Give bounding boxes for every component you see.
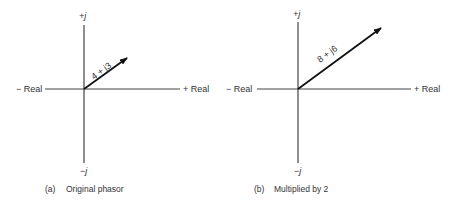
caption-text: Original phasor [66,184,124,194]
phasor-vector [298,28,381,89]
pos-real-label: + Real [183,84,209,94]
pos-imag-label: +j [79,11,87,21]
neg-imag-label: −j [80,166,88,176]
phasor-label: 4 + j3 [89,60,113,81]
neg-imag-label: −j [294,166,302,176]
caption-letter: (b) [254,184,265,194]
caption-letter: (a) [45,184,56,194]
neg-real-label: − Real [16,84,42,94]
pos-imag-label: +j [293,9,301,19]
panel-b-multiplied-by-2: − Real + Real +j −j 8 + j6 (b) Multiplie… [226,9,440,194]
panel-a-original-phasor: − Real + Real +j −j 4 + j3 (a) Original … [16,11,209,194]
neg-real-label: − Real [226,84,252,94]
caption-text: Multiplied by 2 [274,184,329,194]
pos-real-label: + Real [414,84,440,94]
phasor-figure: − Real + Real +j −j 4 + j3 (a) Original … [0,0,450,204]
